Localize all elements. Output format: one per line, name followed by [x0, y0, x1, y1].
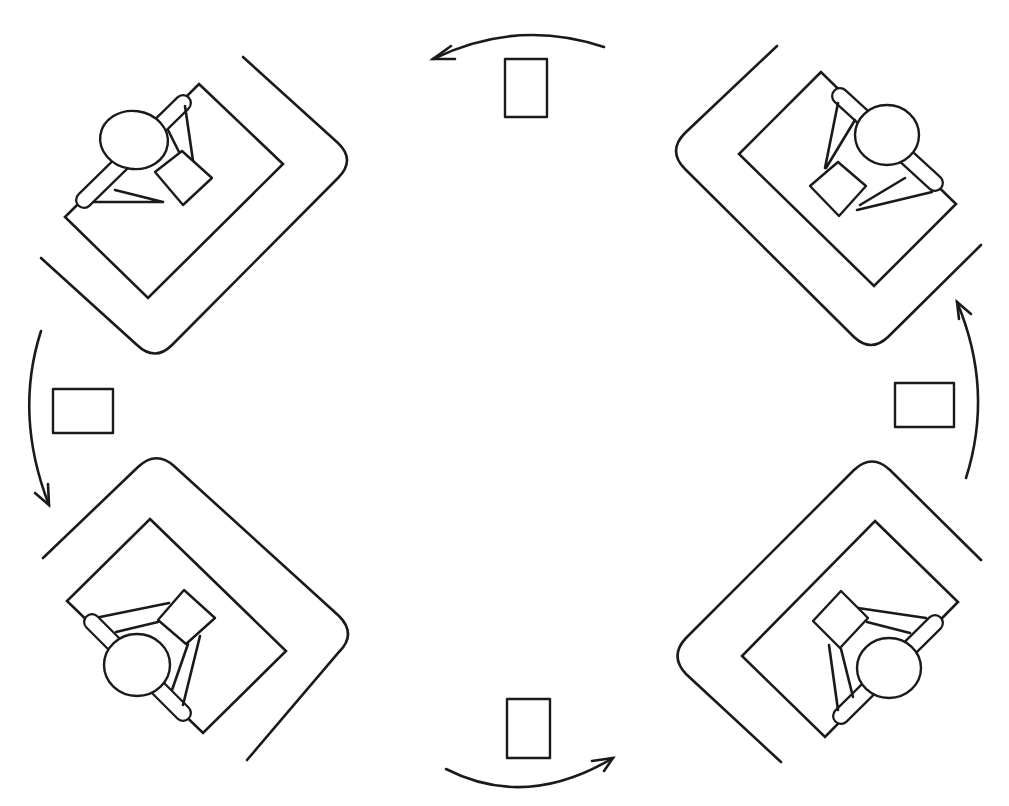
marker-left — [53, 389, 113, 433]
person-figure — [84, 103, 212, 205]
head-icon — [855, 105, 919, 165]
station-top-right — [676, 46, 981, 345]
station-bottom-right — [678, 462, 982, 763]
marker-right — [895, 383, 954, 427]
arrow-left — [29, 331, 49, 505]
station-top-left — [41, 57, 347, 354]
marker-top — [505, 59, 547, 117]
box-icon — [155, 151, 212, 205]
station-bottom-left — [43, 458, 348, 760]
person-figure — [92, 590, 215, 713]
box-icon — [813, 591, 868, 648]
person-figure — [813, 591, 935, 716]
box-icon — [810, 162, 866, 216]
person-figure — [810, 96, 935, 216]
arrow-bottom — [446, 758, 613, 787]
box-icon — [158, 590, 215, 644]
head-icon — [104, 634, 170, 696]
marker-bottom — [507, 699, 550, 758]
head-icon — [857, 638, 921, 698]
workstation-diagram: Workstation rotation layout Four corner … — [0, 0, 1009, 806]
arrow-right — [957, 302, 978, 478]
arrow-top — [433, 35, 604, 59]
